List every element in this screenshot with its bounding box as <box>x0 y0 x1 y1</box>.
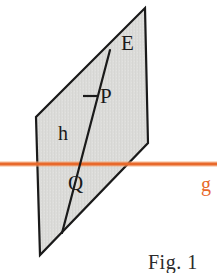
point-label-p: P <box>100 86 112 107</box>
plane-label-e: E <box>121 33 134 54</box>
line-label-h: h <box>58 123 68 143</box>
line-label-g: g <box>201 174 211 194</box>
point-label-q: Q <box>68 173 83 194</box>
figure-caption: Fig. 1 <box>148 252 198 272</box>
